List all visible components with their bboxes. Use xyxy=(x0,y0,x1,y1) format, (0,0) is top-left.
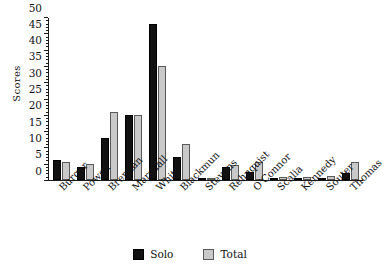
y-tick-minor xyxy=(46,138,48,139)
y-tick-minor xyxy=(46,157,48,158)
y-tick-label: 5 xyxy=(35,149,42,160)
y-tick-minor xyxy=(46,79,48,80)
y-tick-minor xyxy=(46,167,48,168)
y-tick-minor xyxy=(46,154,48,155)
y-tick-minor xyxy=(46,108,48,109)
bar-group xyxy=(339,18,363,180)
y-tick-minor xyxy=(46,53,48,54)
y-tick-label: 35 xyxy=(29,51,42,62)
y-tick-label: 0 xyxy=(35,165,42,176)
bar-group xyxy=(49,18,73,180)
y-tick-minor xyxy=(46,112,48,113)
y-tick-minor xyxy=(46,85,48,86)
bar-group xyxy=(97,18,121,180)
y-tick-minor xyxy=(46,46,48,47)
y-tick-minor xyxy=(46,170,48,171)
y-tick-minor xyxy=(46,37,48,38)
total-swatch-icon xyxy=(203,249,214,260)
y-tick-major xyxy=(44,50,48,51)
y-tick-major xyxy=(44,33,48,34)
y-tick-minor xyxy=(46,105,48,106)
y-tick-minor xyxy=(46,63,48,64)
y-tick-label: 45 xyxy=(29,19,42,30)
y-tick-major xyxy=(44,82,48,83)
y-tick-major xyxy=(44,164,48,165)
solo-swatch-icon xyxy=(133,249,144,260)
bar-solo xyxy=(53,160,61,180)
bar-group xyxy=(291,18,315,180)
y-tick-minor xyxy=(46,160,48,161)
chart-legend: SoloTotal xyxy=(0,248,380,260)
y-tick-major xyxy=(44,147,48,148)
y-tick-major xyxy=(44,17,48,18)
y-tick-minor xyxy=(46,69,48,70)
y-tick-minor xyxy=(46,128,48,129)
y-tick-label: 30 xyxy=(29,67,42,78)
y-tick-label: 25 xyxy=(29,84,42,95)
y-tick-minor xyxy=(46,24,48,25)
y-tick-major xyxy=(44,66,48,67)
y-tick-minor xyxy=(46,43,48,44)
y-tick-minor xyxy=(46,173,48,174)
y-tick-minor xyxy=(46,151,48,152)
legend-item: Total xyxy=(203,248,246,260)
y-axis-label: Scores xyxy=(11,49,22,119)
y-tick-minor xyxy=(46,102,48,103)
y-tick-minor xyxy=(46,177,48,178)
y-tick-label: 40 xyxy=(29,35,42,46)
legend-label: Solo xyxy=(150,248,173,260)
y-tick-minor xyxy=(46,118,48,119)
y-tick-minor xyxy=(46,40,48,41)
y-tick-minor xyxy=(46,30,48,31)
y-tick-minor xyxy=(46,56,48,57)
y-tick-minor xyxy=(46,27,48,28)
bar-group xyxy=(170,18,194,180)
y-tick-label: 10 xyxy=(29,133,42,144)
y-tick-minor xyxy=(46,134,48,135)
y-tick-major xyxy=(44,180,48,181)
y-tick-minor xyxy=(46,89,48,90)
legend-item: Solo xyxy=(133,248,173,260)
y-tick-major xyxy=(44,115,48,116)
x-axis-labels: BurgerPowellBrennanMarshallWhiteBlackmun… xyxy=(49,183,364,241)
y-tick-minor xyxy=(46,76,48,77)
y-tick-label: 50 xyxy=(29,2,42,13)
y-tick-minor xyxy=(46,141,48,142)
bar-solo xyxy=(149,24,157,180)
y-tick-major xyxy=(44,99,48,100)
y-tick-major xyxy=(44,131,48,132)
bar-group xyxy=(73,18,97,180)
y-tick-minor xyxy=(46,72,48,73)
y-tick-minor xyxy=(46,92,48,93)
y-tick-minor xyxy=(46,121,48,122)
y-tick-minor xyxy=(46,59,48,60)
y-tick-minor xyxy=(46,95,48,96)
y-tick-minor xyxy=(46,125,48,126)
y-tick-label: 15 xyxy=(29,116,42,127)
legend-label: Total xyxy=(220,248,246,260)
y-tick-minor xyxy=(46,20,48,21)
y-tick-label: 20 xyxy=(29,100,42,111)
y-tick-minor xyxy=(46,144,48,145)
